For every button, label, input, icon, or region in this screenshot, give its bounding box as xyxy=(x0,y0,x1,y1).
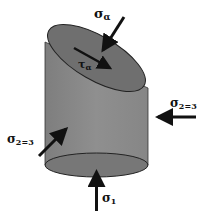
sigma-23-left-label: σ2=3 xyxy=(7,132,34,147)
sigma-alpha-label: σα xyxy=(94,6,111,22)
sigma-23-right-label: σ2=3 xyxy=(170,96,197,111)
stress-diagram: σα τα σ2=3 σ2=3 σ1 xyxy=(0,0,212,221)
sigma-1-label: σ1 xyxy=(102,191,116,206)
